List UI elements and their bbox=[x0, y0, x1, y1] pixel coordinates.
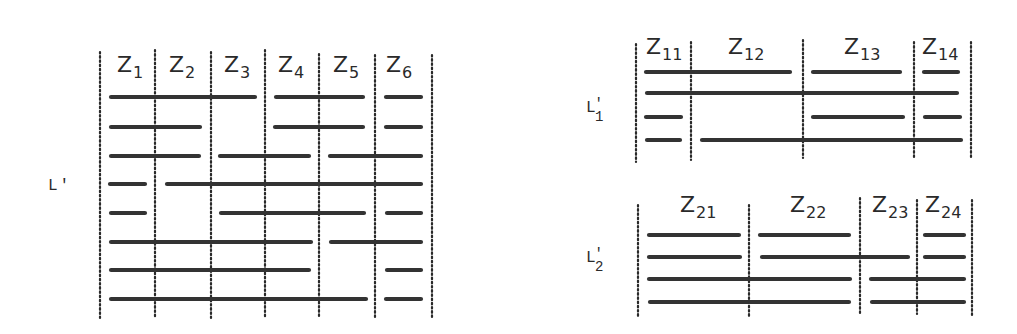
set-label: L' bbox=[48, 177, 69, 195]
zone-label: Z23 bbox=[872, 192, 908, 222]
panel-L2-prime: Z21Z22Z23Z24L'2 bbox=[586, 192, 972, 316]
zone-label: Z2 bbox=[169, 52, 195, 82]
zone-label: Z4 bbox=[278, 52, 304, 82]
panel-L1-prime: Z11Z12Z13Z14L'1 bbox=[586, 34, 971, 162]
zone-label: Z6 bbox=[386, 52, 412, 82]
zone-label: Z13 bbox=[844, 34, 880, 64]
zone-label: Z14 bbox=[922, 34, 958, 64]
zone-label: Z3 bbox=[224, 52, 250, 82]
zone-label: Z21 bbox=[680, 192, 716, 222]
zone-label: Z24 bbox=[925, 192, 961, 222]
zone-label: Z12 bbox=[728, 34, 764, 64]
set-label: L'2 bbox=[586, 246, 603, 275]
zone-line-diagram: Z1Z2Z3Z4Z5Z6L'Z11Z12Z13Z14L'1Z21Z22Z23Z2… bbox=[0, 0, 1017, 334]
zone-label: Z22 bbox=[790, 192, 826, 222]
set-label: L'1 bbox=[586, 96, 603, 125]
zone-label: Z5 bbox=[333, 52, 359, 82]
zone-label: Z1 bbox=[117, 52, 143, 82]
panel-L-prime: Z1Z2Z3Z4Z5Z6L' bbox=[48, 50, 432, 318]
zone-label: Z11 bbox=[646, 34, 682, 64]
